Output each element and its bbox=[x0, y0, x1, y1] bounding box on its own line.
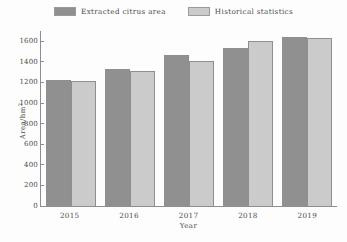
x-axis-tick-label: 2019 bbox=[278, 207, 337, 220]
plot-area: 02004006008001000120014001600 bbox=[40, 31, 337, 207]
legend-item-historical-statistics: Historical statistics bbox=[188, 7, 293, 16]
bar-group-2019 bbox=[278, 31, 337, 206]
bar-extracted-2017 bbox=[164, 55, 189, 206]
y-axis-tick-label: 200 bbox=[24, 181, 41, 189]
y-axis-tick-label: 1600 bbox=[19, 37, 41, 45]
bar-extracted-2015 bbox=[46, 80, 71, 206]
bar-group-2017 bbox=[159, 31, 218, 206]
y-axis-tick-label: 800 bbox=[24, 120, 41, 128]
bar-historical-2019 bbox=[307, 38, 332, 206]
legend-label-historical-statistics: Historical statistics bbox=[215, 7, 293, 16]
bar-historical-2017 bbox=[189, 61, 214, 206]
x-axis-tick-label: 2015 bbox=[40, 207, 99, 220]
bar-groups bbox=[41, 31, 337, 206]
y-axis-tick-label: 600 bbox=[24, 140, 41, 148]
bar-chart: Extracted citrus area Historical statist… bbox=[0, 0, 347, 242]
bar-historical-2015 bbox=[71, 81, 96, 206]
bar-extracted-2019 bbox=[282, 37, 307, 206]
x-axis-title: Year bbox=[40, 222, 337, 230]
chart-legend: Extracted citrus area Historical statist… bbox=[0, 7, 347, 16]
bar-extracted-2018 bbox=[223, 48, 248, 206]
x-axis-tick-label: 2018 bbox=[218, 207, 277, 220]
legend-swatch-historical-statistics bbox=[188, 7, 210, 16]
bar-group-2015 bbox=[41, 31, 100, 206]
x-axis-ticks: 20152016201720182019 bbox=[40, 207, 337, 220]
bar-group-2016 bbox=[100, 31, 159, 206]
y-axis-tick-label: 1400 bbox=[19, 58, 41, 66]
legend-label-extracted-citrus-area: Extracted citrus area bbox=[81, 7, 166, 16]
x-axis-tick-label: 2016 bbox=[99, 207, 158, 220]
bar-historical-2018 bbox=[248, 41, 273, 206]
y-axis-tick-label: 400 bbox=[24, 161, 41, 169]
bar-historical-2016 bbox=[130, 71, 155, 206]
bar-extracted-2016 bbox=[105, 69, 130, 206]
y-axis-tick-label: 1000 bbox=[19, 99, 41, 107]
bar-group-2018 bbox=[219, 31, 278, 206]
legend-swatch-extracted-citrus-area bbox=[54, 7, 76, 16]
y-axis-tick-label: 1200 bbox=[19, 78, 41, 86]
legend-item-extracted-citrus-area: Extracted citrus area bbox=[54, 7, 166, 16]
x-axis-tick-label: 2017 bbox=[159, 207, 218, 220]
